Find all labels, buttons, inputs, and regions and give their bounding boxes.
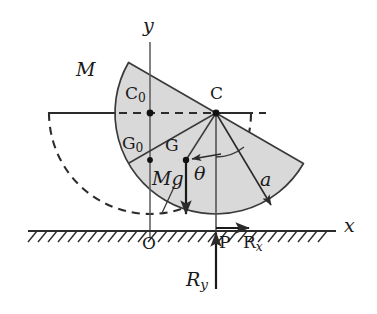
theta-label: θ: [194, 164, 205, 183]
point-label-c0-sub: 0: [138, 91, 146, 105]
point-dot-g: [183, 157, 189, 163]
point-label-g: G: [165, 137, 179, 154]
point-dot-c0: [147, 110, 154, 117]
point-label-g0: G0: [122, 135, 143, 154]
origin-label: O: [142, 235, 156, 252]
point-dot-c: [213, 110, 220, 117]
x-axis-label: x: [344, 216, 355, 235]
point-label-c: C: [210, 85, 223, 102]
point-label-g0-text: G: [122, 133, 136, 153]
reaction-y-label-sub: y: [200, 276, 208, 292]
reaction-y-label-text: R: [186, 268, 200, 290]
point-dot-g0: [147, 157, 153, 163]
half-disc-body: [78, 63, 303, 251]
diagram-canvas: [0, 0, 377, 314]
ground-hatching: [28, 231, 327, 242]
reaction-y-label: Ry: [186, 270, 208, 292]
weight-label-mg: Mg: [152, 169, 184, 188]
radius-label-a: a: [260, 170, 271, 189]
reaction-x-label-text: R: [243, 232, 256, 252]
y-axis-label: y: [143, 16, 154, 35]
mass-label-m: M: [76, 60, 95, 79]
physics-diagram: y x O M C0 C G0 G P Mg a θ Rx Ry: [0, 0, 377, 314]
point-label-g0-sub: 0: [136, 141, 144, 155]
point-label-c0-text: C: [125, 83, 138, 103]
point-label-c0: C0: [125, 85, 146, 104]
reaction-x-label: Rx: [243, 234, 263, 253]
reaction-x-label-sub: x: [256, 240, 263, 254]
point-label-p: P: [219, 234, 230, 251]
